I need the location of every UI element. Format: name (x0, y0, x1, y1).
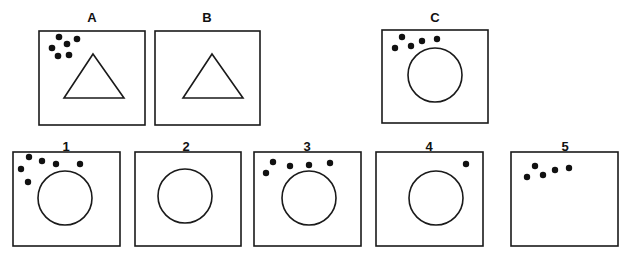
analogy-puzzle: A B C 1 (0, 0, 631, 259)
panel-a-label: A (87, 10, 97, 25)
dot (263, 170, 269, 176)
dot (25, 179, 31, 185)
dot (532, 163, 538, 169)
panel-c: C (382, 10, 488, 123)
dot (77, 161, 83, 167)
dot (566, 165, 572, 171)
panel-b-frame (155, 31, 260, 125)
dot (524, 174, 530, 180)
dot (408, 43, 414, 49)
option-5-frame[interactable] (511, 152, 618, 246)
panel-b: B (155, 10, 260, 125)
dot (327, 160, 333, 166)
option-1-frame[interactable] (13, 152, 120, 246)
option-5[interactable]: 5 (511, 139, 618, 246)
dot (434, 36, 440, 42)
dot (287, 163, 293, 169)
panel-a: A (39, 10, 145, 125)
dot (306, 162, 312, 168)
dot (55, 53, 62, 60)
panel-b-label: B (202, 10, 211, 25)
dot (64, 41, 71, 48)
dot (392, 45, 398, 51)
dot (74, 36, 81, 43)
option-3[interactable]: 3 (254, 139, 361, 246)
dot (49, 45, 56, 52)
dot (552, 167, 558, 173)
dot (270, 159, 276, 165)
option-4[interactable]: 4 (376, 139, 483, 246)
dot (26, 154, 32, 160)
dot (18, 166, 24, 172)
dot (66, 52, 73, 59)
panel-c-frame (382, 30, 488, 123)
dot (53, 161, 59, 167)
dot (540, 172, 546, 178)
dot (419, 38, 425, 44)
dot (399, 34, 405, 40)
panel-a-frame (39, 31, 145, 125)
option-2[interactable]: 2 (135, 139, 241, 246)
option-2-frame[interactable] (135, 152, 241, 246)
dot (56, 34, 63, 41)
panel-c-label: C (430, 10, 440, 25)
dot (463, 161, 469, 167)
dot (39, 158, 45, 164)
option-1[interactable]: 1 (13, 139, 120, 246)
